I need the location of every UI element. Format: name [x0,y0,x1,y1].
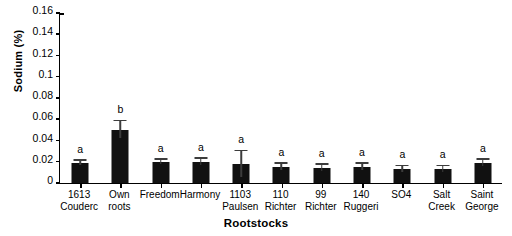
x-tick-label-line2: Couderc [60,201,98,213]
sodium-by-rootstock-bar-chart: Sodium (%) 00.020.040.060.080.10.120.140… [0,0,512,236]
x-tick-label: 99Richter [305,189,337,212]
error-bar-stem [79,161,81,165]
bar-group: a [302,13,342,183]
y-tick-label: 0.04 [8,133,53,144]
bar [152,162,169,183]
bar [192,162,209,183]
error-bar-stem [482,160,484,166]
significance-letter: a [399,149,405,160]
error-bar-cap [275,162,288,164]
error-bar-cap [114,120,127,122]
x-tick-label-line2: roots [108,201,130,213]
significance-letter: a [319,148,325,159]
x-tick-label-line2: Creek [428,201,455,213]
x-tick-label: SO4 [391,189,411,201]
error-bar-cap [74,159,87,161]
x-tick-label: Harmony [180,189,221,201]
x-tick-label: Freedom [140,189,180,201]
error-bar-stem [281,164,283,170]
significance-letter: a [279,147,285,158]
x-tick-label-line1: 140 [353,189,370,200]
x-tick-mark [402,184,404,188]
bar-group: a [261,13,301,183]
error-bar-cap [315,163,328,165]
significance-letter: a [480,143,486,154]
error-bar-stem [361,164,363,170]
x-tick-label-line2: Richter [305,201,337,213]
bar-group: a [181,13,221,183]
x-tick-label-line1: SO4 [391,189,411,200]
error-bar-cap [235,150,248,152]
significance-letter: a [158,143,164,154]
error-bar-stem [442,166,444,172]
y-tick-label: 0.12 [8,48,53,59]
x-tick-label-line1: 1103 [229,189,251,200]
y-tick-label: 0.06 [8,111,53,122]
error-bar-cap [476,158,489,160]
x-tick-mark [362,184,364,188]
x-tick-mark [241,184,243,188]
x-tick-label-line1: 110 [273,189,289,200]
error-bar-stem [321,165,323,171]
x-tick-mark [120,184,122,188]
bar-group: b [100,13,140,183]
bar-group: a [221,13,261,183]
plot-area: 00.020.040.060.080.10.120.140.16 abaaaaa… [59,14,502,184]
x-tick-label: 140Ruggeri [344,189,379,212]
error-bar-stem [160,160,162,164]
error-bar-stem [120,121,122,138]
significance-letter: a [238,134,244,145]
bar-group: a [141,13,181,183]
x-tick-label: SaintGeorge [465,189,498,212]
x-tick-label: 110Richter [265,189,297,212]
x-tick-label-line1: Saint [470,189,493,200]
error-bar-cap [154,158,167,160]
significance-letter: a [77,144,83,155]
y-tick-label: 0.1 [8,69,53,80]
x-tick-label-line2: George [465,201,498,213]
bar-group: a [463,13,503,183]
error-bar-cap [436,165,449,167]
x-tick-mark [282,184,284,188]
y-tick-label: 0.16 [8,5,53,16]
x-tick-mark [161,184,163,188]
bar-group: a [342,13,382,183]
significance-letter: b [117,104,123,115]
y-tick-label: 0 [8,175,53,186]
x-tick-mark [80,184,82,188]
x-tick-label-line2: Paulsen [222,201,258,213]
significance-letter: a [440,149,446,160]
error-bar-cap [356,162,369,164]
x-axis-title: Rootstocks [0,217,512,229]
y-tick-label: 0.02 [8,154,53,165]
bar-group: a [422,13,462,183]
x-tick-mark [201,184,203,188]
x-tick-mark [483,184,485,188]
x-tick-label: 1103Paulsen [222,189,258,212]
y-axis-title: Sodium (%) [12,1,24,121]
error-bar-cap [396,165,409,167]
bar [72,163,89,183]
x-tick-label-line1: Freedom [140,189,180,200]
x-tick-label-line1: Own [109,189,130,200]
x-tick-label: SaltCreek [428,189,455,212]
error-bar-stem [200,159,202,165]
significance-letter: a [359,147,365,158]
x-tick-label-line1: 1613 [68,189,90,200]
y-tick-label: 0.08 [8,90,53,101]
y-tick-label: 0.14 [8,26,53,37]
x-tick-label: 1613Couderc [60,189,98,212]
x-tick-label-line2: Ruggeri [344,201,379,213]
x-tick-mark [322,184,324,188]
error-bar-stem [240,151,242,177]
x-tick-label-line2: Richter [265,201,297,213]
x-tick-label-line1: Salt [433,189,450,200]
significance-letter: a [198,142,204,153]
x-tick-label: Ownroots [108,189,130,212]
x-tick-mark [443,184,445,188]
bar-group: a [382,13,422,183]
error-bar-cap [194,157,207,159]
bar-group: a [60,13,100,183]
x-tick-label-line1: Harmony [180,189,221,200]
error-bar-stem [402,166,404,172]
